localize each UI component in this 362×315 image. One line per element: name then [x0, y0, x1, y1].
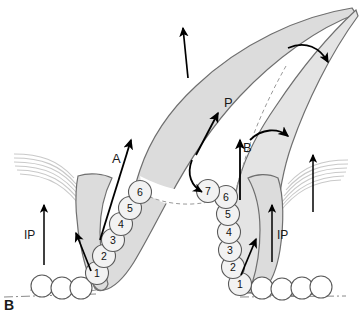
- anatomical-diagram: 1 2 3 4 5 6: [0, 0, 362, 315]
- marker-label: 5: [225, 208, 231, 220]
- left-vesicle-group: [31, 275, 92, 299]
- panel-label: B: [4, 297, 14, 313]
- vesicle: [251, 277, 273, 299]
- marker-label: 3: [227, 244, 233, 256]
- marker-label: 4: [118, 218, 124, 230]
- top-vertical-arrow: [183, 28, 188, 78]
- marker-label: 5: [127, 202, 133, 214]
- marker-label: 2: [230, 261, 236, 273]
- label-anterior: A: [112, 151, 121, 166]
- left-fiber-bundle: [14, 154, 83, 210]
- marker-label: 1: [94, 267, 100, 279]
- label-ip-left: IP: [24, 228, 35, 242]
- marker-label: 2: [101, 250, 107, 262]
- label-posterior: P: [224, 95, 233, 110]
- label-ip-right: IP: [277, 228, 288, 242]
- marker-label: 7: [205, 185, 211, 197]
- marker-label: 3: [110, 234, 116, 246]
- marker-label: 6: [137, 186, 143, 198]
- vesicle: [310, 276, 332, 298]
- vesicle: [31, 275, 53, 297]
- marker-label: 6: [223, 191, 229, 203]
- figure-panel-b: 1 2 3 4 5 6: [0, 0, 362, 315]
- numbered-marker-6: 6: [129, 181, 152, 204]
- vesicle: [271, 278, 293, 300]
- label-basal: B: [243, 140, 252, 155]
- marker-label: 1: [237, 278, 243, 290]
- marker-label: 4: [226, 226, 232, 238]
